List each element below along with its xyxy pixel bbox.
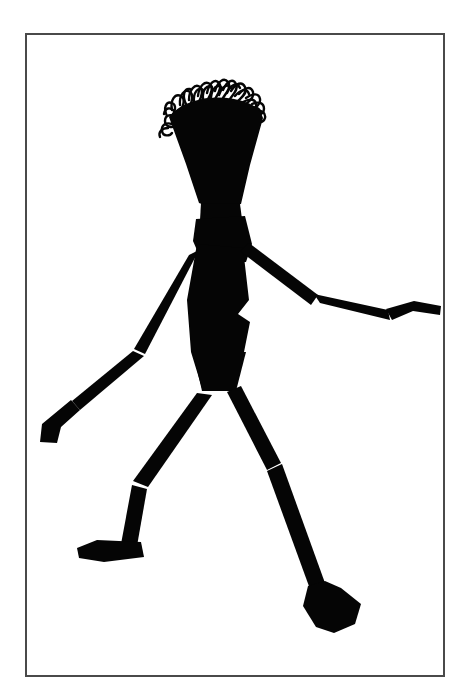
artwork-canvas: Spiky-Haired Figure Silhouette walking s… xyxy=(0,0,470,696)
figure-silhouette-drawing xyxy=(0,0,470,696)
